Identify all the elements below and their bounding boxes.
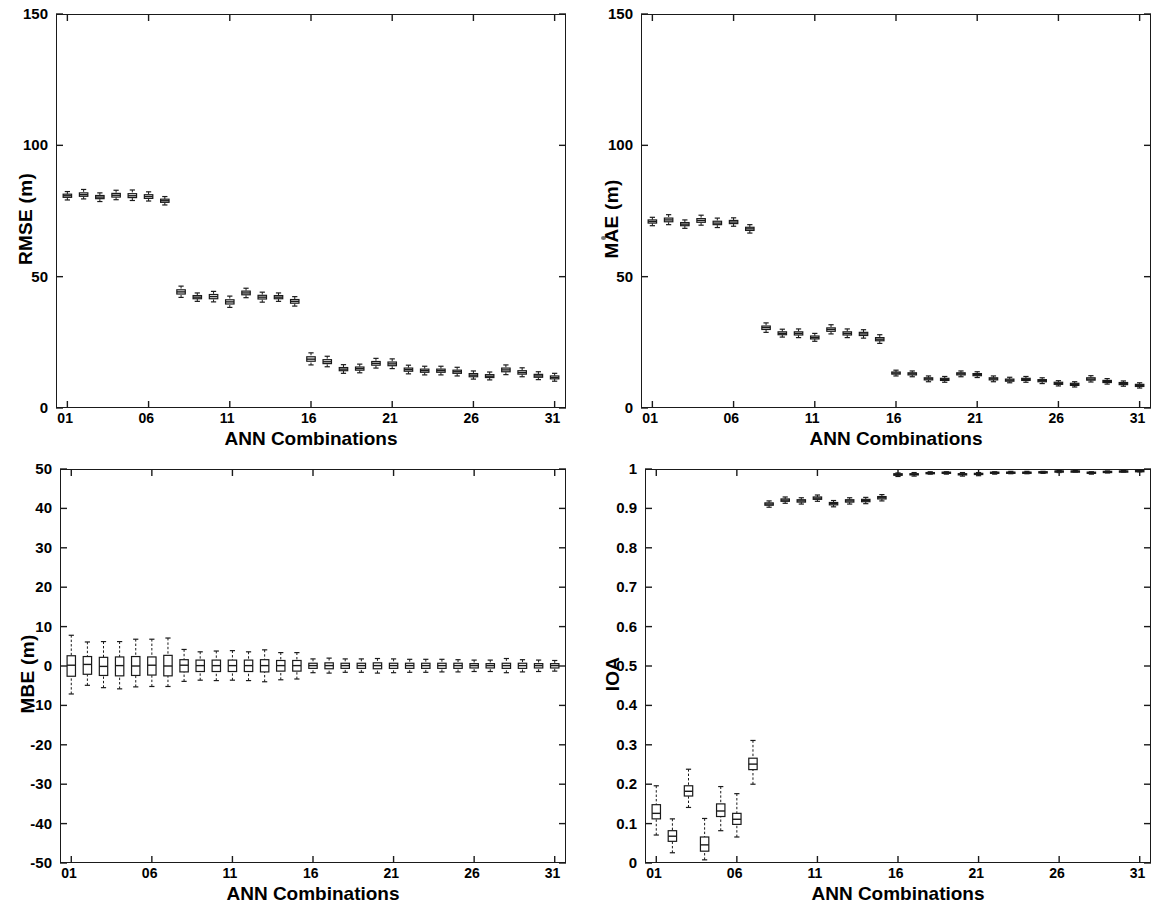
box-plot-item bbox=[372, 358, 380, 368]
box-plot-item bbox=[827, 325, 835, 334]
box-plot-item bbox=[63, 192, 71, 200]
axis-label-x-ioa: ANN Combinations bbox=[645, 883, 1151, 905]
y-axis-tick-label: 0 bbox=[585, 399, 633, 416]
x-axis-tick-label: 16 bbox=[888, 865, 904, 881]
box-plot-item bbox=[164, 638, 172, 686]
x-axis-tick-label: 26 bbox=[464, 865, 480, 881]
boxplot-svg-mae bbox=[641, 14, 1151, 408]
box-plot-item bbox=[843, 329, 851, 338]
y-axis-tick-label: 20 bbox=[4, 578, 52, 595]
y-axis-tick-label: 0.7 bbox=[589, 578, 637, 595]
box-plot-item bbox=[291, 297, 299, 306]
box-plot-item bbox=[341, 659, 349, 672]
boxplot-svg-ioa bbox=[645, 469, 1151, 863]
y-axis-tick-label: 100 bbox=[585, 136, 633, 153]
x-axis-tick-label: 01 bbox=[646, 865, 662, 881]
y-axis-tick-label: 150 bbox=[0, 5, 48, 22]
box-plot-item bbox=[700, 818, 708, 859]
box-plot-item bbox=[664, 215, 672, 225]
box-plot-item bbox=[470, 660, 478, 671]
box-plot-item bbox=[1119, 471, 1127, 473]
y-axis-tick-label: 40 bbox=[4, 499, 52, 516]
panel-mbe: MBE (m) ANN Combinations -50-40-30-20-10… bbox=[0, 455, 585, 911]
box-plot-item bbox=[778, 329, 786, 337]
box-plot-item bbox=[180, 649, 188, 681]
boxplot-svg-mbe bbox=[60, 469, 566, 863]
box-plot-item bbox=[405, 659, 413, 672]
y-axis-tick-label: -30 bbox=[4, 775, 52, 792]
y-axis-tick-label: 0.8 bbox=[589, 539, 637, 556]
x-axis-tick-label: 11 bbox=[807, 865, 822, 881]
x-axis-tick-label: 21 bbox=[382, 410, 398, 426]
box-plot-item bbox=[926, 472, 934, 474]
x-axis-tick-label: 21 bbox=[967, 410, 983, 426]
box-plot-item bbox=[648, 217, 656, 225]
y-axis-tick-label: 50 bbox=[4, 460, 52, 477]
box-plot-item bbox=[196, 652, 204, 680]
box-plot-item bbox=[1039, 471, 1047, 473]
box-plot-item bbox=[829, 501, 837, 507]
y-axis-tick-label: 0.5 bbox=[589, 657, 637, 674]
box-plot-item bbox=[942, 472, 950, 474]
x-axis-tick-label: 01 bbox=[642, 410, 658, 426]
y-axis-tick-label: -40 bbox=[4, 815, 52, 832]
box-plot-item bbox=[309, 659, 317, 673]
box-plot-item bbox=[226, 296, 234, 307]
x-axis-tick-label: 31 bbox=[545, 410, 561, 426]
box-plot-item bbox=[99, 642, 107, 688]
box-plot-item bbox=[974, 473, 982, 476]
box-plot-item bbox=[486, 660, 494, 671]
box-plot-item bbox=[794, 329, 802, 338]
box-plot-item bbox=[356, 364, 364, 373]
box-plot-item bbox=[244, 652, 252, 681]
box-plot-item bbox=[551, 660, 559, 671]
x-axis-tick-label: 06 bbox=[142, 865, 158, 881]
box-plot-item bbox=[325, 658, 333, 673]
box-plot-item bbox=[469, 371, 477, 379]
box-plot-item bbox=[550, 373, 558, 381]
x-axis-tick-label: 31 bbox=[545, 865, 561, 881]
box-plot-item bbox=[437, 366, 445, 375]
box-plot-item bbox=[132, 639, 140, 687]
y-axis-tick-label: 0.9 bbox=[589, 499, 637, 516]
box-plot-item bbox=[668, 819, 676, 853]
box-plot-item bbox=[518, 660, 526, 672]
box-plot-item bbox=[1054, 381, 1062, 386]
box-plot-item bbox=[989, 376, 997, 382]
x-axis-tick-label: 11 bbox=[805, 410, 820, 426]
box-plot-item bbox=[746, 225, 754, 233]
box-plot-item bbox=[1055, 471, 1063, 473]
box-plot-item bbox=[813, 495, 821, 501]
box-plot-item bbox=[438, 659, 446, 672]
y-axis-tick-label: 150 bbox=[585, 5, 633, 22]
box-plot-item bbox=[762, 323, 770, 332]
box-plot-item bbox=[128, 190, 136, 201]
axis-label-x-rmse: ANN Combinations bbox=[56, 428, 566, 450]
box-plot-item bbox=[797, 498, 805, 504]
box-plot-item bbox=[161, 197, 169, 205]
box-plot-item bbox=[274, 293, 282, 301]
box-plot-item bbox=[941, 376, 949, 382]
box-plot-item bbox=[96, 193, 104, 202]
box-plot-item bbox=[1070, 382, 1078, 387]
box-plot-item bbox=[518, 368, 526, 377]
box-plot-item bbox=[924, 376, 932, 382]
box-plot-item bbox=[534, 372, 542, 380]
y-axis-tick-label: 100 bbox=[0, 136, 48, 153]
x-axis-tick-label: 11 bbox=[220, 410, 235, 426]
box-plot-item bbox=[454, 660, 462, 672]
box-plot-item bbox=[910, 473, 918, 477]
box-plot-item bbox=[323, 356, 331, 367]
y-axis-tick-label: 0 bbox=[0, 399, 48, 416]
y-axis-tick-label: 30 bbox=[4, 539, 52, 556]
y-axis-tick-label: -10 bbox=[4, 696, 52, 713]
box-plot-item bbox=[277, 653, 285, 680]
box-plot-item bbox=[485, 372, 493, 380]
box-plot-item bbox=[713, 218, 721, 227]
box-plot-item bbox=[652, 786, 660, 835]
x-axis-tick-label: 06 bbox=[139, 410, 155, 426]
box-plot-item bbox=[502, 659, 510, 673]
x-axis-tick-label: 26 bbox=[463, 410, 479, 426]
box-plot-item bbox=[502, 365, 510, 375]
x-axis-tick-label: 16 bbox=[303, 865, 319, 881]
